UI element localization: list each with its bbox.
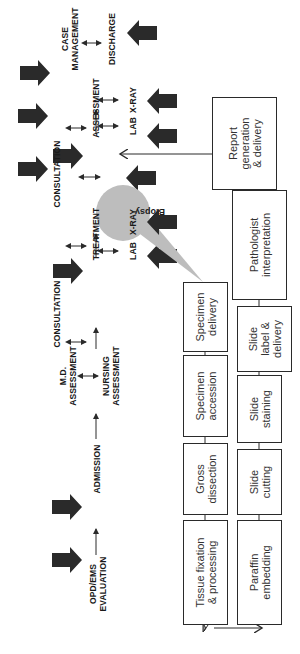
step-assessment: ASSESSMENT — [91, 68, 101, 148]
step-case-management: CASE MANAGEMENT — [60, 4, 80, 74]
big-arrows-top — [18, 60, 83, 573]
step-treatment: TREATMENT — [91, 204, 101, 264]
step-xray-1: X-RAY — [128, 202, 138, 242]
step-opd-evaluation: OPD/EMS EVALUATION — [88, 554, 108, 614]
biopsy-label: Biopsy — [135, 207, 165, 217]
step-md-assessment: M.D. ASSESSMENT — [58, 346, 78, 406]
box-slide-label-delivery: Slide label & delivery — [237, 306, 292, 372]
step-xray-2: X-RAY — [128, 80, 138, 120]
box-slide-staining: Slide staining — [237, 375, 282, 443]
step-consultation-1: CONSULTATION — [52, 274, 62, 354]
step-consultation-2: CONSULTATION — [52, 134, 62, 214]
box-report-generation: Report generation & delivery — [212, 97, 277, 190]
step-discharge: DISCHARGE — [107, 4, 117, 74]
box-gross-dissection: Gross dissection — [183, 443, 228, 515]
box-tissue-fixation: Tissue fixation & processing — [183, 520, 228, 625]
step-admission: ADMISSION — [92, 444, 102, 494]
box-pathologist-interpretation: Pathologist interpretation — [232, 190, 287, 300]
box-slide-cutting: Slide cutting — [237, 449, 282, 515]
box-specimen-delivery: Specimen delivery — [183, 282, 228, 352]
box-specimen-accession: Specimen accession — [183, 355, 228, 437]
process-diagram: Biopsy OPD/EMS EVALUATION ADMISSION M.D.… — [0, 0, 300, 654]
box-paraffin-embedding: Paraffin embedding — [237, 520, 282, 625]
step-nursing-assessment: NURSING ASSESSMENT — [101, 346, 121, 406]
